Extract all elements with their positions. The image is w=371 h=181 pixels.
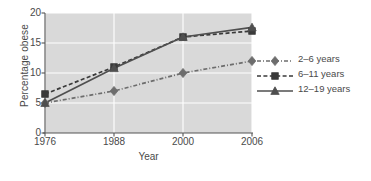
legend-marker-swatch [256, 70, 294, 82]
legend-label: 6–11 years [294, 68, 344, 79]
x-tick-label: 2006 [230, 137, 274, 147]
line-chart: Percentage obese 05101520 19761988200020… [0, 0, 371, 181]
x-tick-label: 1988 [92, 137, 136, 147]
legend-marker-swatch [256, 55, 294, 67]
square-marker-icon [272, 72, 279, 79]
legend-label: 12–19 years [294, 83, 350, 94]
legend-sample [256, 83, 294, 95]
legend-label: 2–6 years [294, 53, 340, 64]
x-tick-label: 1976 [23, 137, 67, 147]
legend-sample [256, 68, 294, 80]
figure-caption [14, 176, 354, 181]
legend-marker-swatch [256, 85, 294, 97]
x-axis-tick-labels: 1976198820002006 [45, 137, 252, 151]
chart-legend: 2–6 years6–11 years12–19 years [256, 51, 371, 96]
legend-item[interactable]: 2–6 years [256, 51, 371, 66]
legend-item[interactable]: 12–19 years [256, 81, 371, 96]
diamond-marker-icon [271, 56, 279, 65]
legend-sample [256, 53, 294, 65]
square-marker-icon [42, 91, 49, 98]
x-tick-label: 2000 [161, 137, 205, 147]
x-axis-title: Year [45, 151, 252, 162]
legend-item[interactable]: 6–11 years [256, 66, 371, 81]
